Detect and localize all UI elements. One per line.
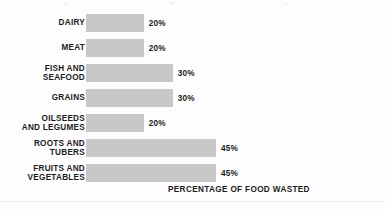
category-label: FISH AND SEAFOOD	[0, 64, 85, 83]
x-axis-caption: PERCENTAGE OF FOOD WASTED	[168, 185, 310, 194]
bar-track: 20%	[86, 14, 385, 32]
bar	[86, 89, 173, 107]
bar-value-label: 45%	[221, 144, 238, 153]
bar-value-label: 30%	[178, 94, 195, 103]
category-label: FRUITS AND VEGETABLES	[0, 164, 85, 183]
category-label: DAIRY	[0, 18, 85, 27]
chart-row: OILSEEDS AND LEGUMES20%	[0, 114, 385, 132]
chart-row: MEAT20%	[0, 39, 385, 57]
bar-track: 20%	[86, 114, 385, 132]
bar-track: 45%	[86, 164, 385, 182]
bar	[86, 39, 144, 57]
bar	[86, 14, 144, 32]
chart-row: FISH AND SEAFOOD30%	[0, 64, 385, 82]
food-waste-bar-chart: DAIRY20%MEAT20%FISH AND SEAFOOD30%GRAINS…	[0, 0, 385, 210]
bar-value-label: 30%	[178, 69, 195, 78]
category-label: OILSEEDS AND LEGUMES	[0, 114, 85, 133]
chart-row: ROOTS AND TUBERS45%	[0, 139, 385, 157]
bar	[86, 139, 216, 157]
chart-row: GRAINS30%	[0, 89, 385, 107]
chart-row: DAIRY20%	[0, 14, 385, 32]
chart-rows: DAIRY20%MEAT20%FISH AND SEAFOOD30%GRAINS…	[0, 14, 385, 189]
bar-track: 45%	[86, 139, 385, 157]
category-label: ROOTS AND TUBERS	[0, 139, 85, 158]
bar	[86, 164, 216, 182]
bar-track: 30%	[86, 89, 385, 107]
chart-row: FRUITS AND VEGETABLES45%	[0, 164, 385, 182]
bar-value-label: 20%	[149, 19, 166, 28]
bar-value-label: 20%	[149, 119, 166, 128]
scan-artifact-top	[0, 0, 385, 9]
bar-value-label: 20%	[149, 44, 166, 53]
bar-track: 30%	[86, 64, 385, 82]
footer-divider	[0, 201, 385, 202]
category-label: MEAT	[0, 43, 85, 52]
bar	[86, 64, 173, 82]
bar-value-label: 45%	[221, 169, 238, 178]
bar-track: 20%	[86, 39, 385, 57]
category-label: GRAINS	[0, 93, 85, 102]
bar	[86, 114, 144, 132]
